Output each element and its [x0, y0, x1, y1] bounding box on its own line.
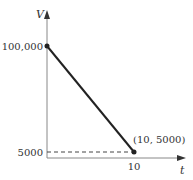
x-axis-arrow-icon	[177, 155, 186, 161]
y-axis-arrow-icon	[44, 10, 50, 19]
y-tick-bottom: 5000	[18, 147, 43, 158]
y-axis-label: V	[36, 8, 45, 21]
endpoint-annotation: (10, 5000)	[133, 134, 185, 145]
data-line	[47, 46, 134, 152]
end-point	[132, 150, 137, 155]
x-tick: 10	[128, 161, 141, 172]
y-tick-top: 100,000	[2, 41, 43, 52]
x-axis-label: t	[180, 164, 185, 177]
start-point	[45, 44, 50, 49]
chart: V t 100,000 5000 10 (10, 5000)	[0, 0, 193, 180]
